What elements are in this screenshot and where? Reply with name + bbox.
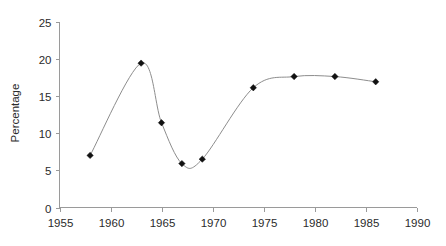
y-tick-label: 15 [39,91,52,103]
y-tick-label: 0 [45,203,51,215]
x-tick-label: 1990 [405,217,431,229]
y-tick-label: 5 [45,165,51,177]
y-tick-label: 10 [39,128,52,140]
y-axis-title: Percentage [9,84,21,143]
x-tick-label: 1985 [354,217,380,229]
x-tick-label: 1960 [99,217,125,229]
x-tick-label: 1955 [48,217,74,229]
y-tick-label: 25 [39,17,52,29]
chart-container: 0510152025 Percentage 195519601965197019… [0,0,446,246]
y-tick-label: 20 [39,54,52,66]
chart-background [0,0,446,246]
x-tick-label: 1975 [252,217,278,229]
x-tick-label: 1970 [201,217,227,229]
x-tick-label: 1965 [150,217,176,229]
x-tick-label: 1980 [303,217,329,229]
line-chart: 0510152025 Percentage 195519601965197019… [0,0,446,246]
